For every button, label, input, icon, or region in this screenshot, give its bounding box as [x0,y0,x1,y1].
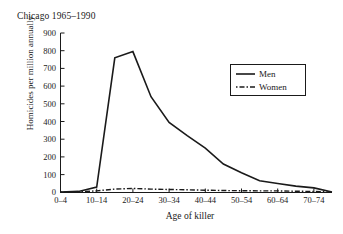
legend-entry-women: Women [236,80,287,94]
series-line-women [61,188,333,192]
legend-swatch-solid-icon [236,69,255,79]
legend-label-women: Women [259,82,287,92]
x-axis-label: Age of killer [60,211,320,221]
chart-legend: Men Women [230,64,306,96]
x-tick-label: 70–74 [291,196,337,205]
legend-entry-men: Men [236,67,276,81]
chart-figure: Chicago 1965–1990 Homicides per million … [0,0,343,234]
legend-swatch-dashdot-icon [236,82,255,92]
y-axis-ticks [61,33,65,192]
legend-label-men: Men [259,69,276,79]
